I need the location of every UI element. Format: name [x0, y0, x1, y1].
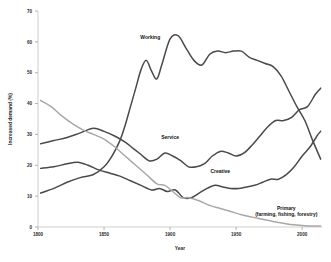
y-axis-ticks: 010203040506070: [27, 9, 38, 230]
x-axis-ticks: 18001850190019502000: [33, 227, 308, 237]
y-tick-label: 60: [27, 40, 33, 45]
series-label-primary-detail: (farming, fishing, forestry): [255, 211, 318, 217]
series-line: [41, 88, 321, 167]
x-tick-label: 1950: [231, 232, 242, 237]
series-label-service: Service: [161, 134, 179, 140]
x-tick-label: 2000: [297, 232, 308, 237]
series-label-primary: Primary: [277, 205, 296, 211]
x-tick-label: 1900: [165, 232, 176, 237]
series-line: [41, 35, 321, 193]
y-tick-label: 50: [27, 70, 33, 75]
series-paths: [41, 35, 321, 226]
y-tick-label: 40: [27, 101, 33, 106]
y-tick-label: 10: [27, 194, 33, 199]
y-axis-title: Increased demand (%): [8, 93, 13, 145]
x-tick-label: 1800: [33, 232, 44, 237]
y-tick-label: 30: [27, 132, 33, 137]
series-label-creative: Creative: [210, 168, 230, 174]
series-labels: WorkingServiceCreativePrimary(farming, f…: [140, 34, 317, 217]
y-tick-label: 0: [29, 225, 32, 230]
series-label-working: Working: [140, 34, 160, 40]
y-tick-label: 20: [27, 163, 33, 168]
y-tick-label: 70: [27, 9, 33, 14]
chart-canvas: 010203040506070 18001850190019502000 Wor…: [0, 0, 331, 262]
line-chart: 010203040506070 18001850190019502000 Wor…: [0, 0, 331, 262]
series-line: [41, 131, 321, 198]
x-tick-label: 1850: [99, 232, 110, 237]
x-axis-title: Year: [175, 246, 185, 251]
